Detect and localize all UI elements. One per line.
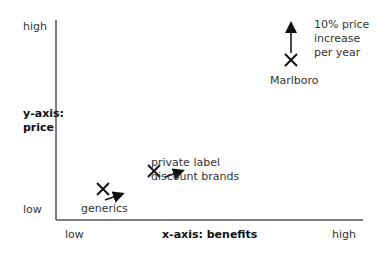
x-axis-low-label: low	[65, 228, 84, 241]
y-axis-high-label: high	[23, 20, 47, 33]
y-axis-title-line1: y-axis:	[23, 107, 64, 120]
generics-marker-icon	[97, 183, 109, 195]
private-label-line1: private label	[151, 156, 220, 169]
marlboro-note-line1: 10% price	[314, 18, 369, 31]
marlboro-note-line3: per year	[314, 46, 360, 59]
marlboro-note-line2: increase	[314, 32, 360, 45]
marlboro-label: Marlboro	[270, 74, 319, 87]
generics-label: generics	[81, 202, 128, 215]
private-label-line2: discount brands	[151, 170, 239, 183]
marlboro-marker-icon	[285, 54, 297, 66]
y-axis-title-line2: price	[23, 121, 54, 134]
x-axis-high-label: high	[332, 228, 356, 241]
y-axis-low-label: low	[23, 203, 42, 216]
x-axis-title: x-axis: benefits	[162, 228, 257, 241]
